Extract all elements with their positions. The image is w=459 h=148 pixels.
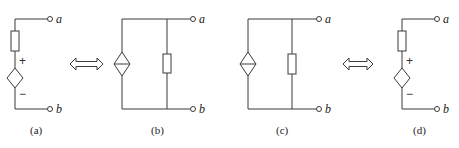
plus-sign: + <box>19 54 26 68</box>
wire-bottom <box>122 76 190 109</box>
resistor <box>163 54 171 73</box>
terminal-a <box>191 17 196 22</box>
terminal-a <box>317 17 322 22</box>
terminal-label-b: b <box>56 102 62 116</box>
caption-a: (a) <box>30 124 43 137</box>
terminal-b <box>317 107 322 112</box>
caption-c: (c) <box>276 124 289 137</box>
wire-top <box>248 19 316 52</box>
circuit-equivalence-diagram: a b + − (a) a b (b) a b (c) <box>0 0 459 148</box>
terminal-label-b: b <box>443 102 449 116</box>
terminal-label-b: b <box>325 102 331 116</box>
panel-c: a b (c) <box>240 12 331 137</box>
wire-top <box>402 19 434 31</box>
panel-d: a b + − (d) <box>394 12 449 137</box>
panel-b: a b (b) <box>114 12 205 137</box>
terminal-b <box>191 107 196 112</box>
resistor <box>398 31 406 51</box>
wire-top <box>122 19 190 52</box>
resistor <box>288 54 296 74</box>
terminal-label-a: a <box>199 12 205 26</box>
terminal-label-a: a <box>56 12 62 26</box>
dependent-voltage-source <box>394 68 410 88</box>
terminal-label-a: a <box>325 12 331 26</box>
wire-bottom <box>248 76 316 109</box>
terminal-a <box>48 17 53 22</box>
plus-sign: + <box>406 54 413 68</box>
terminal-b <box>48 107 53 112</box>
terminal-a <box>435 17 440 22</box>
caption-b: (b) <box>151 124 164 137</box>
minus-sign: − <box>406 87 413 101</box>
dependent-voltage-source <box>7 68 23 88</box>
double-arrow-icon <box>343 58 373 70</box>
resistor <box>11 31 19 51</box>
terminal-b <box>435 107 440 112</box>
caption-d: (d) <box>413 124 426 137</box>
panel-a: a b + − (a) <box>7 12 62 137</box>
minus-sign: − <box>19 87 26 101</box>
terminal-label-a: a <box>443 12 449 26</box>
terminal-label-b: b <box>199 102 205 116</box>
wire-top <box>15 19 47 31</box>
double-arrow-icon <box>70 58 103 70</box>
